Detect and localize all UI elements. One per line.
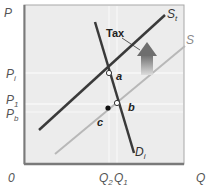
quantity-tick-q2: Q2 <box>99 171 113 187</box>
plot-area <box>24 5 184 164</box>
point-a-marker <box>106 70 111 75</box>
point-b-marker <box>114 100 119 105</box>
supply-label: S <box>186 33 194 47</box>
tax-incidence-diagram: Tax a b c St S Di P Q 0 Pi P1 Pb Q2 Q1 <box>0 0 214 187</box>
point-c-marker <box>105 105 110 110</box>
price-tick-pb: Pb <box>6 107 19 123</box>
point-c-label: c <box>97 116 103 128</box>
quantity-tick-q1: Q1 <box>114 171 128 187</box>
point-a-label: a <box>116 70 122 82</box>
price-tick-pi: Pi <box>6 67 16 83</box>
y-axis-label: P <box>4 6 12 20</box>
origin-label: 0 <box>8 171 15 185</box>
tax-label: Tax <box>106 27 125 39</box>
x-axis-label: Q <box>196 171 205 185</box>
point-b-label: b <box>128 101 135 113</box>
